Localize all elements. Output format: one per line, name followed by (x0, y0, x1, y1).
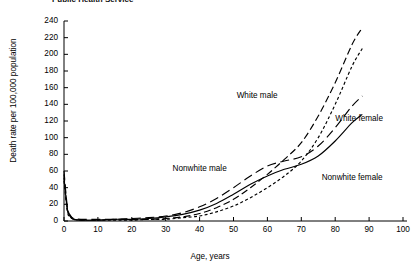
x-axis-title: Age, years (150, 252, 270, 261)
x-tick-label: 70 (290, 225, 312, 234)
curve-label-white-male: White male (237, 91, 278, 100)
chart-figure: Public Health Service Death rate per 100… (0, 0, 420, 270)
series-line-nonwhite-male (64, 96, 362, 219)
y-tick-label: 160 (34, 84, 58, 92)
series-line-white-female (64, 49, 362, 221)
x-tick-label: 80 (324, 225, 346, 234)
x-tick-label: 0 (53, 225, 75, 234)
y-tick-label: 240 (34, 17, 58, 25)
x-tick-label: 60 (256, 225, 278, 234)
x-tick-label: 20 (121, 225, 143, 234)
x-tick-label: 90 (358, 225, 380, 234)
y-tick-label: 40 (34, 184, 58, 192)
y-tick-label: 180 (34, 67, 58, 75)
y-axis-title: Death rate per 100,000 population (9, 0, 18, 206)
x-tick-label: 10 (87, 225, 109, 234)
chart-canvas (44, 17, 409, 237)
y-tick-label: 140 (34, 100, 58, 108)
y-tick-label: 220 (34, 34, 58, 42)
y-tick-label: 0 (34, 217, 58, 225)
y-tick-label: 100 (34, 134, 58, 142)
x-tick-label: 30 (155, 225, 177, 234)
clipped-header-text: Public Health Service (52, 0, 212, 4)
y-tick-label: 200 (34, 50, 58, 58)
y-tick-label: 80 (34, 150, 58, 158)
y-tick-label: 60 (34, 167, 58, 175)
y-tick-label: 20 (34, 200, 58, 208)
y-tick-label: 120 (34, 117, 58, 125)
curve-label-nonwhite-female: Nonwhite female (322, 173, 383, 182)
series-line-white-male (64, 28, 362, 221)
x-tick-label: 40 (189, 225, 211, 234)
plot-area: 020406080100120140160180200220240 010203… (44, 17, 409, 237)
curve-label-white-female: White female (335, 114, 383, 123)
x-tick-label: 100 (392, 225, 414, 234)
curve-label-nonwhite-male: Nonwhite male (173, 164, 227, 173)
x-tick-label: 50 (223, 225, 245, 234)
